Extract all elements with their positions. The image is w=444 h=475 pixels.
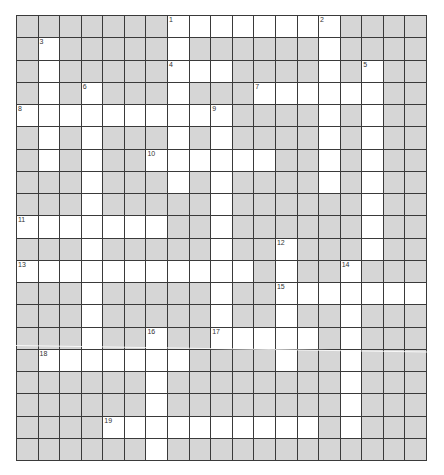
answer-cell[interactable] — [190, 417, 211, 438]
letter-input[interactable] — [17, 105, 38, 126]
answer-cell[interactable] — [341, 305, 362, 326]
answer-cell[interactable] — [82, 350, 103, 371]
letter-input[interactable] — [211, 261, 232, 282]
answer-cell[interactable] — [211, 127, 232, 148]
letter-input[interactable] — [362, 105, 383, 126]
letter-input[interactable] — [190, 261, 211, 282]
answer-cell[interactable] — [254, 150, 275, 171]
letter-input[interactable] — [319, 127, 340, 148]
letter-input[interactable] — [103, 417, 124, 438]
letter-input[interactable] — [168, 16, 189, 37]
answer-cell[interactable] — [362, 105, 383, 126]
letter-input[interactable] — [17, 261, 38, 282]
letter-input[interactable] — [82, 350, 103, 371]
letter-input[interactable] — [168, 350, 189, 371]
letter-input[interactable] — [168, 38, 189, 59]
answer-cell[interactable] — [168, 350, 189, 371]
answer-cell[interactable] — [319, 38, 340, 59]
letter-input[interactable] — [233, 417, 254, 438]
letter-input[interactable] — [362, 216, 383, 237]
letter-input[interactable] — [146, 105, 167, 126]
answer-cell[interactable] — [298, 283, 319, 304]
letter-input[interactable] — [341, 305, 362, 326]
letter-input[interactable] — [103, 261, 124, 282]
answer-cell[interactable] — [39, 261, 60, 282]
answer-cell[interactable] — [362, 216, 383, 237]
letter-input[interactable] — [211, 127, 232, 148]
letter-input[interactable] — [341, 394, 362, 415]
answer-cell[interactable]: 18 — [39, 350, 60, 371]
letter-input[interactable] — [341, 83, 362, 104]
answer-cell[interactable] — [82, 261, 103, 282]
answer-cell[interactable] — [168, 417, 189, 438]
answer-cell[interactable] — [276, 83, 297, 104]
letter-input[interactable] — [211, 328, 232, 349]
answer-cell[interactable] — [362, 127, 383, 148]
letter-input[interactable] — [298, 283, 319, 304]
answer-cell[interactable] — [168, 105, 189, 126]
answer-cell[interactable] — [341, 283, 362, 304]
answer-cell[interactable] — [39, 150, 60, 171]
letter-input[interactable] — [82, 261, 103, 282]
answer-cell[interactable] — [211, 150, 232, 171]
letter-input[interactable] — [125, 216, 146, 237]
answer-cell[interactable] — [125, 261, 146, 282]
letter-input[interactable] — [319, 38, 340, 59]
answer-cell[interactable] — [168, 261, 189, 282]
answer-cell[interactable] — [341, 350, 362, 371]
letter-input[interactable] — [298, 328, 319, 349]
answer-cell[interactable] — [60, 105, 81, 126]
answer-cell[interactable] — [341, 372, 362, 393]
letter-input[interactable] — [146, 216, 167, 237]
answer-cell[interactable]: 12 — [276, 239, 297, 260]
answer-cell[interactable] — [82, 283, 103, 304]
letter-input[interactable] — [168, 61, 189, 82]
answer-cell[interactable] — [146, 417, 167, 438]
letter-input[interactable] — [211, 239, 232, 260]
answer-cell[interactable] — [319, 83, 340, 104]
letter-input[interactable] — [341, 283, 362, 304]
answer-cell[interactable]: 16 — [146, 328, 167, 349]
answer-cell[interactable] — [362, 283, 383, 304]
letter-input[interactable] — [190, 105, 211, 126]
answer-cell[interactable]: 17 — [211, 328, 232, 349]
answer-cell[interactable]: 2 — [319, 16, 340, 37]
answer-cell[interactable] — [233, 16, 254, 37]
answer-cell[interactable] — [125, 417, 146, 438]
letter-input[interactable] — [39, 83, 60, 104]
letter-input[interactable] — [17, 216, 38, 237]
answer-cell[interactable] — [362, 83, 383, 104]
answer-cell[interactable] — [60, 261, 81, 282]
letter-input[interactable] — [319, 16, 340, 37]
answer-cell[interactable] — [39, 61, 60, 82]
answer-cell[interactable] — [211, 61, 232, 82]
answer-cell[interactable]: 6 — [82, 83, 103, 104]
letter-input[interactable] — [146, 328, 167, 349]
letter-input[interactable] — [211, 305, 232, 326]
letter-input[interactable] — [125, 350, 146, 371]
answer-cell[interactable] — [341, 417, 362, 438]
letter-input[interactable] — [276, 16, 297, 37]
answer-cell[interactable] — [190, 105, 211, 126]
answer-cell[interactable]: 11 — [17, 216, 38, 237]
letter-input[interactable] — [211, 283, 232, 304]
answer-cell[interactable]: 15 — [276, 283, 297, 304]
letter-input[interactable] — [341, 328, 362, 349]
letter-input[interactable] — [319, 172, 340, 193]
letter-input[interactable] — [39, 150, 60, 171]
answer-cell[interactable] — [362, 194, 383, 215]
answer-cell[interactable] — [319, 283, 340, 304]
letter-input[interactable] — [82, 127, 103, 148]
answer-cell[interactable] — [298, 417, 319, 438]
answer-cell[interactable] — [82, 194, 103, 215]
letter-input[interactable] — [362, 172, 383, 193]
letter-input[interactable] — [362, 194, 383, 215]
answer-cell[interactable] — [254, 328, 275, 349]
letter-input[interactable] — [341, 350, 362, 371]
letter-input[interactable] — [405, 283, 426, 304]
answer-cell[interactable] — [298, 16, 319, 37]
answer-cell[interactable] — [319, 105, 340, 126]
answer-cell[interactable] — [168, 38, 189, 59]
letter-input[interactable] — [276, 283, 297, 304]
letter-input[interactable] — [341, 417, 362, 438]
